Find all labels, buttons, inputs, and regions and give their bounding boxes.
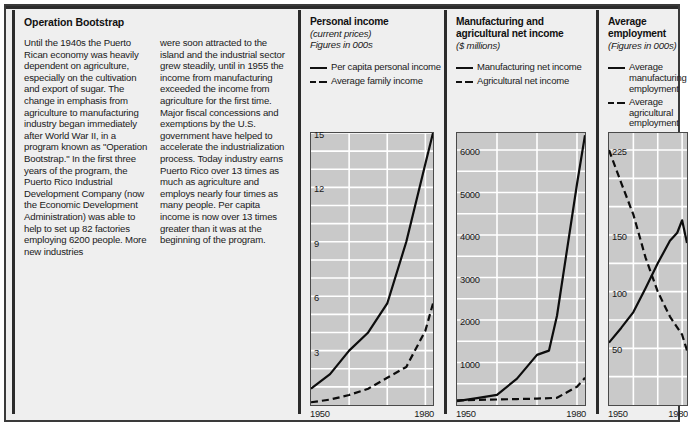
chart-3-title: Average employment <box>608 16 688 40</box>
plot-area: 100020003000400050006000 <box>456 132 586 406</box>
legend-label: Average family income <box>331 76 423 87</box>
chart-2-title-line-1: Manufacturing and <box>456 16 596 28</box>
chart-3-subtitle-1: (Figures in 000s) <box>608 40 688 51</box>
chart-1-plot: 369121519501980 <box>310 132 434 422</box>
y-axis-tick-label: 150 <box>612 231 627 242</box>
plot-svg <box>609 133 687 405</box>
chart-3-header: Average employment (Figures in 000s) <box>608 16 688 51</box>
x-axis-tick-label: 1950 <box>608 408 628 419</box>
legend-label: Average manufacturing employment <box>629 62 688 94</box>
y-axis-tick-label: 4000 <box>460 231 480 242</box>
legend-label: Per capita personal income <box>331 62 441 73</box>
article-column-2: were soon attracted to the island and th… <box>160 37 286 257</box>
legend-line-dashed-icon <box>456 76 473 87</box>
y-axis-tick-label: 3000 <box>460 273 480 284</box>
y-axis-tick-label: 2000 <box>460 316 480 327</box>
y-axis-tick-label: 100 <box>612 287 627 298</box>
legend-line-dashed-icon <box>608 97 625 108</box>
x-axis-tick-label: 1950 <box>310 408 330 419</box>
x-axis-tick-label: 1980 <box>668 408 688 419</box>
y-axis-tick-label: 9 <box>314 237 319 248</box>
article-column-1: Until the 1940s the Puerto Rican economy… <box>24 37 150 257</box>
plot-area: 3691215 <box>310 132 434 406</box>
y-axis-tick-label: 12 <box>314 183 324 194</box>
x-axis: 19501980 <box>608 408 688 422</box>
x-axis: 19501980 <box>456 408 586 422</box>
legend-item: Average agricultural employment <box>608 97 688 129</box>
chart-1-header: Personal income (current prices) Figures… <box>310 16 444 51</box>
plot-area: 50100150225 <box>608 132 688 406</box>
article-panel: Operation Bootstrap Until the 1940s the … <box>12 10 294 414</box>
y-axis-tick-label: 6000 <box>460 146 480 157</box>
gridlines <box>609 133 687 405</box>
chart-3-plot: 5010015022519501980 <box>608 132 688 422</box>
legend-label: Average agricultural employment <box>629 97 688 129</box>
chart-panel-average-employment: Average employment (Figures in 000s) Ave… <box>596 10 688 414</box>
legend-label: Agricultural net income <box>477 76 569 87</box>
chart-1-legend: Per capita personal income Average famil… <box>310 62 444 87</box>
chart-2-header: Manufacturing and agricultural net incom… <box>456 16 596 51</box>
figure-frame: Operation Bootstrap Until the 1940s the … <box>4 4 680 422</box>
legend-label: Manufacturing net income <box>477 62 582 73</box>
y-axis-tick-label: 5000 <box>460 188 480 199</box>
article-column-2-text: were soon attracted to the island and th… <box>160 37 286 246</box>
legend-item: Per capita personal income <box>310 62 444 73</box>
article-column-1-text: Until the 1940s the Puerto Rican economy… <box>24 37 150 257</box>
x-axis-tick-label: 1980 <box>414 408 434 419</box>
legend-line-dashed-icon <box>310 76 327 87</box>
article-columns: Until the 1940s the Puerto Rican economy… <box>24 37 294 257</box>
chart-1-subtitle-2: Figures in 000s <box>310 39 444 50</box>
y-axis-tick-label: 1000 <box>460 358 480 369</box>
chart-2-plot: 10002000300040005000600019501980 <box>456 132 586 422</box>
page-title: Operation Bootstrap <box>24 16 294 28</box>
gridlines <box>311 133 433 405</box>
chart-1-subtitle-1: (current prices) <box>310 28 444 39</box>
chart-2-legend: Manufacturing net income Agricultural ne… <box>456 62 596 87</box>
x-axis-tick-label: 1980 <box>566 408 586 419</box>
series-line <box>457 378 585 401</box>
y-axis-tick-label: 3 <box>314 346 319 357</box>
legend-line-solid-icon <box>456 62 473 73</box>
legend-item: Agricultural net income <box>456 76 596 87</box>
y-axis-tick-label: 6 <box>314 292 319 303</box>
legend-line-solid-icon <box>310 62 327 73</box>
y-axis-tick-label: 50 <box>612 344 622 355</box>
chart-panel-manufacturing-agricultural: Manufacturing and agricultural net incom… <box>444 10 596 414</box>
x-axis-tick-label: 1950 <box>456 408 476 419</box>
chart-2-subtitle-1: ($ millions) <box>456 40 596 51</box>
legend-item: Average manufacturing employment <box>608 62 688 94</box>
chart-panel-personal-income: Personal income (current prices) Figures… <box>298 10 444 414</box>
y-axis-tick-label: 15 <box>314 129 324 140</box>
x-axis: 19501980 <box>310 408 434 422</box>
plot-svg <box>311 133 433 405</box>
chart-2-title-line-2: agricultural net income <box>456 28 596 40</box>
legend-item: Manufacturing net income <box>456 62 596 73</box>
y-axis-tick-label: 225 <box>612 146 627 157</box>
legend-item: Average family income <box>310 76 444 87</box>
chart-3-legend: Average manufacturing employment Average… <box>608 62 688 129</box>
chart-1-title: Personal income <box>310 16 444 28</box>
legend-line-solid-icon <box>608 62 625 73</box>
